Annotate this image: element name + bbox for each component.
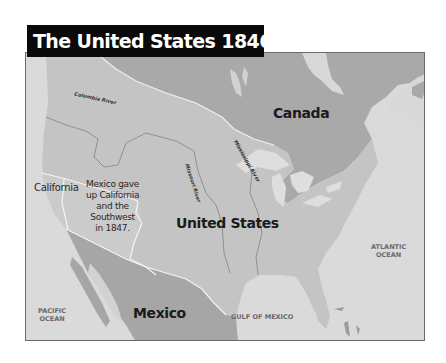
cession-note-line: Southwest (86, 212, 139, 223)
map-frame: Canada United States Mexico California M… (25, 52, 425, 341)
map-title-bar: The United States 1846–1848 (27, 25, 264, 57)
ocean-line: OCEAN (38, 315, 66, 323)
map-title: The United States 1846–1848 (27, 30, 331, 52)
label-gulf-of-mexico: GULF OF MEXICO (231, 313, 293, 321)
pacific-line: PACIFIC (38, 307, 66, 315)
cession-note-line: Mexico gave (86, 179, 139, 190)
cession-note-line: and the (86, 201, 139, 212)
atlantic-line: ATLANTIC (371, 243, 406, 251)
label-united-states: United States (176, 215, 279, 231)
label-mexico: Mexico (133, 305, 186, 321)
label-pacific-ocean: PACIFIC OCEAN (38, 307, 66, 323)
cession-note: Mexico gave up California and the Southw… (86, 179, 139, 234)
label-california: California (34, 182, 79, 193)
label-canada: Canada (273, 105, 329, 121)
ocean-line: OCEAN (371, 251, 406, 259)
cession-note-line: in 1847. (86, 223, 139, 234)
cession-note-line: up California (86, 190, 139, 201)
label-atlantic-ocean: ATLANTIC OCEAN (371, 243, 406, 259)
